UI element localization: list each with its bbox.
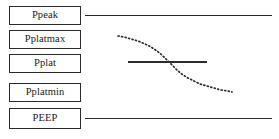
- label-box-pplatmax: Pplatmax: [9, 30, 81, 49]
- label-box-pplat: Pplat: [9, 54, 81, 73]
- label-text-pplat: Pplat: [34, 58, 56, 69]
- label-text-peep: PEEP: [33, 113, 58, 124]
- label-text-pplatmin: Pplatmin: [26, 87, 65, 98]
- label-box-peep: PEEP: [9, 108, 81, 129]
- label-box-pplatmin: Pplatmin: [9, 83, 81, 102]
- label-text-ppeak: Ppeak: [32, 10, 58, 20]
- pressure-level-figure: Ppeak Pplatmax Pplat Pplatmin PEEP: [0, 0, 279, 139]
- label-box-ppeak: Ppeak: [9, 6, 81, 25]
- label-text-pplatmax: Pplatmax: [25, 34, 65, 45]
- pressure-decay-sigmoid-curve: [118, 36, 232, 92]
- figure-caption: [46, 131, 261, 139]
